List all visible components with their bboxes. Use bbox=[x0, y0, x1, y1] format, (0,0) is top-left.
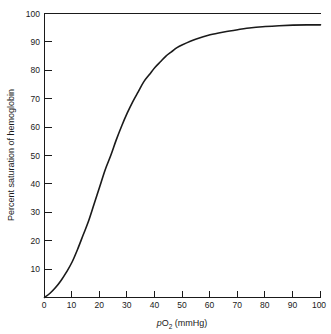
y-tick-label: 60 bbox=[31, 122, 41, 132]
x-tick-label: 20 bbox=[94, 300, 104, 310]
y-tick-label: 50 bbox=[31, 151, 41, 161]
y-tick-label: 90 bbox=[31, 37, 41, 47]
x-tick-label: 100 bbox=[312, 300, 326, 310]
oxygen-hemoglobin-dissociation-chart: 100 90 80 70 60 50 40 30 20 10 0 10 20 3… bbox=[0, 0, 331, 334]
y-tick-label: 40 bbox=[31, 179, 41, 189]
x-tick-label: 90 bbox=[288, 300, 298, 310]
chart-background bbox=[0, 0, 331, 334]
x-tick-label: 0 bbox=[42, 300, 47, 310]
chart-figure: 100 90 80 70 60 50 40 30 20 10 0 10 20 3… bbox=[0, 0, 331, 334]
x-tick-label: 60 bbox=[205, 300, 215, 310]
x-tick-label: 30 bbox=[122, 300, 132, 310]
x-tick-label: 50 bbox=[177, 300, 187, 310]
y-tick-label: 100 bbox=[26, 9, 40, 19]
x-axis-title: pO2 (mmHg) bbox=[156, 318, 208, 330]
x-tick-label: 40 bbox=[150, 300, 160, 310]
y-tick-label: 70 bbox=[31, 94, 41, 104]
x-tick-label: 10 bbox=[67, 300, 77, 310]
y-tick-label: 30 bbox=[31, 207, 41, 217]
x-axis-title-suffix: (mmHg) bbox=[172, 318, 207, 328]
x-tick-label: 70 bbox=[232, 300, 242, 310]
y-tick-label: 10 bbox=[31, 264, 41, 274]
y-tick-label: 80 bbox=[31, 65, 41, 75]
y-axis-title: Percent saturation of hemoglobin bbox=[6, 89, 16, 221]
x-tick-label: 80 bbox=[260, 300, 270, 310]
y-tick-label: 20 bbox=[31, 236, 41, 246]
x-axis-title-base: O bbox=[162, 318, 169, 328]
